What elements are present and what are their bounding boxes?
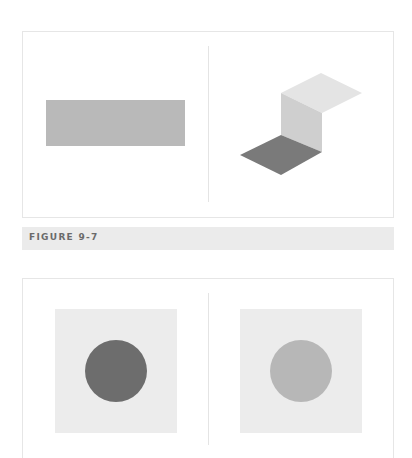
light-circle [270, 340, 332, 402]
dark-circle [85, 340, 147, 402]
gray-rectangle [46, 100, 185, 146]
